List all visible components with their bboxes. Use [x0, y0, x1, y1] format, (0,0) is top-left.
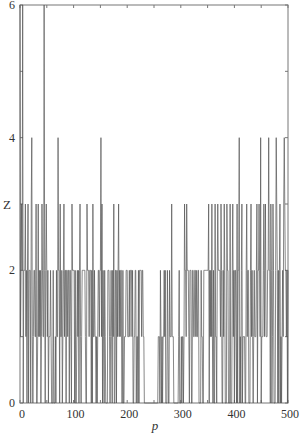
- x-tick-labels: 0100200300400500: [19, 407, 299, 421]
- spike-chart: 0100200300400500 0246 p Z: [0, 0, 304, 436]
- svg-text:500: 500: [281, 407, 299, 421]
- svg-text:6: 6: [9, 0, 15, 12]
- y-axis-title: Z: [3, 197, 11, 212]
- svg-text:4: 4: [9, 131, 15, 145]
- svg-text:100: 100: [67, 407, 85, 421]
- x-axis-title: p: [151, 418, 159, 433]
- svg-text:200: 200: [120, 407, 138, 421]
- svg-text:2: 2: [9, 263, 15, 277]
- svg-text:300: 300: [174, 407, 192, 421]
- svg-text:400: 400: [227, 407, 245, 421]
- svg-text:0: 0: [9, 396, 15, 410]
- data-series-z: [20, 5, 288, 403]
- svg-text:0: 0: [19, 407, 25, 421]
